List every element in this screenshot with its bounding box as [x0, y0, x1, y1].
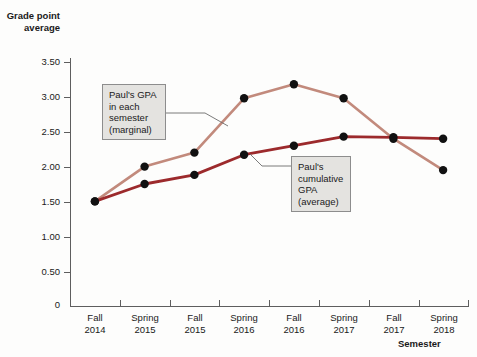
- leader-line-marginal: [165, 113, 228, 126]
- annotation-line: cumulative: [298, 173, 345, 185]
- annotation-line: GPA: [298, 184, 345, 196]
- annotation-line: (marginal): [109, 124, 160, 136]
- data-point-marker: [290, 142, 298, 150]
- data-point-marker: [190, 148, 198, 156]
- data-point-marker: [140, 180, 148, 188]
- annotation-line: in each: [109, 101, 160, 113]
- data-point-marker: [290, 80, 298, 88]
- data-point-marker: [439, 135, 447, 143]
- annotation-line: Paul's GPA: [109, 89, 160, 101]
- annotation-callout-cumulative: Paul's cumulative GPA (average): [291, 156, 351, 212]
- annotation-callout-marginal: Paul's GPA in each semester (marginal): [102, 84, 166, 140]
- data-point-marker: [190, 171, 198, 179]
- data-point-marker: [240, 94, 248, 102]
- data-point-marker: [439, 166, 447, 174]
- plot-area: [0, 0, 477, 357]
- gpa-line-chart-figure: Grade point average 3.50 3.00 2.50 2.00 …: [0, 0, 477, 357]
- annotation-line: Paul's: [298, 161, 345, 173]
- data-point-marker: [240, 151, 248, 159]
- data-point-marker: [389, 133, 397, 141]
- data-point-marker: [91, 197, 99, 205]
- annotation-line: (average): [298, 196, 345, 208]
- data-point-marker: [339, 94, 347, 102]
- data-point-marker: [140, 162, 148, 170]
- annotation-line: semester: [109, 112, 160, 124]
- leader-line-cumulative: [250, 154, 294, 166]
- data-point-marker: [339, 132, 347, 140]
